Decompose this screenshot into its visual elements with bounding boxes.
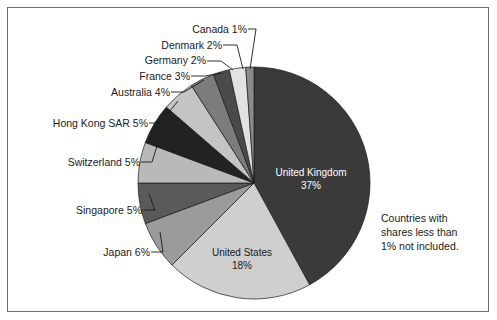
note-line-2: shares less than [381,226,458,238]
slice-callout-label: Australia 4% [111,86,170,98]
chart-note: Countries with shares less than 1% not i… [381,212,459,252]
pie-chart-svg: Canada 1%Denmark 2%Germany 2%France 3%Au… [0,0,497,320]
slice-callout-label: Canada 1% [192,23,247,35]
slice-callout-label: Denmark 2% [161,39,222,51]
slice-callout-label: Switzerland 5% [68,156,140,168]
slice-inside-label: United Kingdom [275,167,346,178]
slice-callout-label: Germany 2% [145,54,206,66]
pie-slices [138,67,370,299]
leader-line [207,61,233,70]
leader-line [223,45,243,69]
slice-callout-label: Hong Kong SAR 5% [53,117,148,129]
pie-chart-figure: Canada 1%Denmark 2%Germany 2%France 3%Au… [0,0,497,320]
leader-line [248,29,256,69]
slice-inside-percent: 18% [232,260,252,271]
slice-inside-percent: 37% [301,180,321,191]
note-line-1: Countries with [381,212,448,224]
slice-callout-label: Japan 6% [103,246,150,258]
slice-callout-label: France 3% [139,70,190,82]
slice-callout-label: Singapore 5% [76,204,142,216]
note-line-3: 1% not included. [381,240,459,252]
slice-inside-label: United States [212,247,272,258]
